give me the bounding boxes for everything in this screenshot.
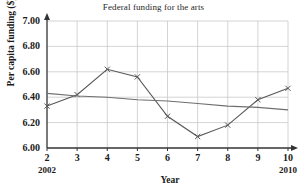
y-tick-label: 7.00: [6, 15, 40, 26]
y-tick-label: 6.80: [6, 40, 40, 51]
x-tick-label: 10: [278, 152, 298, 163]
plot-area: 7.006.806.606.406.206.00 220023456789102…: [0, 0, 307, 192]
x-tick-label: 2: [37, 152, 57, 163]
x-tick-label: 6: [158, 152, 178, 163]
x-tick-label: 7: [188, 152, 208, 163]
x-tick-label: 3: [67, 152, 87, 163]
x-axis-arrow: [291, 145, 298, 151]
x-tick-label: 9: [248, 152, 268, 163]
gridlines: [47, 21, 288, 148]
x-tick-sublabel: 2010: [271, 165, 305, 175]
x-tick-label: 4: [97, 152, 117, 163]
plot-svg: [0, 0, 307, 192]
y-tick-label: 6.00: [6, 142, 40, 153]
x-tick-sublabel: 2002: [30, 165, 64, 175]
y-tick-label: 6.20: [6, 117, 40, 128]
y-tick-label: 6.60: [6, 66, 40, 77]
chart-screenshot: Federal funding for the arts Per capita …: [0, 0, 307, 192]
y-tick-label: 6.40: [6, 91, 40, 102]
axes: [44, 13, 298, 151]
x-tick-label: 5: [127, 152, 147, 163]
y-axis-arrow: [44, 13, 50, 20]
x-tick-label: 8: [218, 152, 238, 163]
x-axis-label: Year: [50, 175, 290, 185]
